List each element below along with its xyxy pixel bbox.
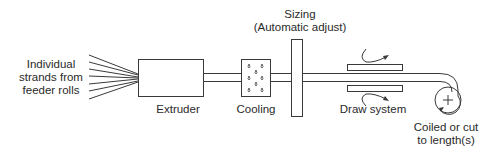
sizing-label-line-1: Sizing (245, 8, 355, 21)
cooling-box (242, 60, 271, 97)
draw-plate-top (348, 65, 403, 71)
sizing-label-line-2: (Automatic adjust) (245, 21, 355, 34)
coil-label: Coiled or cut to length(s) (406, 121, 486, 147)
sizing-die (292, 40, 303, 117)
cooling-label: Cooling (226, 103, 286, 116)
draw-plate-bottom (348, 86, 403, 92)
extruder-label: Extruder (148, 103, 208, 116)
feeder-label-line-1: Individual (16, 58, 86, 71)
feeder-label: Individual strands from feeder rolls (16, 58, 86, 97)
coil-label-line-1: Coiled or cut (406, 121, 486, 134)
draw-arrow-top-icon (362, 49, 386, 62)
water-droplets-icon (248, 64, 263, 92)
extruder-box (139, 60, 204, 97)
draw-system-label: Draw system (333, 103, 413, 116)
sizing-label: Sizing (Automatic adjust) (245, 8, 355, 34)
feeder-label-line-2: strands from (16, 71, 86, 84)
coil-label-line-2: to length(s) (406, 134, 486, 147)
feeder-label-line-3: feeder rolls (16, 84, 86, 97)
feeder-strands (89, 55, 138, 99)
